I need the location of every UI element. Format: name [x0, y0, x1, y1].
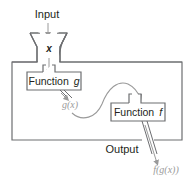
intermediate-value-label: g(x) — [62, 99, 79, 111]
output-value-label: f(g(x)) — [153, 164, 179, 176]
composition-diagram: Input x Function g g(x) Function f Outpu… — [0, 0, 192, 181]
function-g-word: Function — [28, 75, 68, 87]
function-f-word: Function — [114, 106, 154, 118]
function-f-label: Function f — [114, 106, 163, 118]
input-variable: x — [45, 43, 52, 54]
input-label: Input — [35, 8, 59, 20]
output-label: Output — [105, 143, 138, 155]
function-g-name: g — [74, 75, 80, 87]
output-arrow-icon — [145, 125, 157, 163]
